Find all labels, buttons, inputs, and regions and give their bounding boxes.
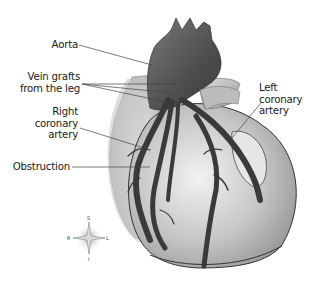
compass-right: R <box>67 235 70 241</box>
label-left-coronary-artery: Left coronary artery <box>259 82 302 117</box>
label-left-coronary-line1: Left <box>259 82 302 94</box>
label-right-coronary-artery: Right coronary artery <box>20 106 78 141</box>
label-aorta: Aorta <box>38 39 78 51</box>
label-obstruction: Obstruction <box>8 161 70 173</box>
label-vein-grafts: Vein grafts from the leg <box>10 71 80 94</box>
label-right-coronary-line3: artery <box>20 129 78 141</box>
compass-left: L <box>106 235 109 241</box>
label-right-coronary-line1: Right <box>20 106 78 118</box>
compass-superior: S <box>87 215 90 221</box>
compass-inferior: I <box>88 256 89 262</box>
label-left-coronary-line2: coronary <box>259 94 302 106</box>
compass-rose <box>73 222 105 254</box>
label-left-coronary-line3: artery <box>259 105 302 117</box>
label-vein-grafts-line1: Vein grafts <box>10 71 80 83</box>
label-vein-grafts-line2: from the leg <box>10 83 80 95</box>
label-right-coronary-line2: coronary <box>20 118 78 130</box>
aorta-leader <box>79 45 152 65</box>
